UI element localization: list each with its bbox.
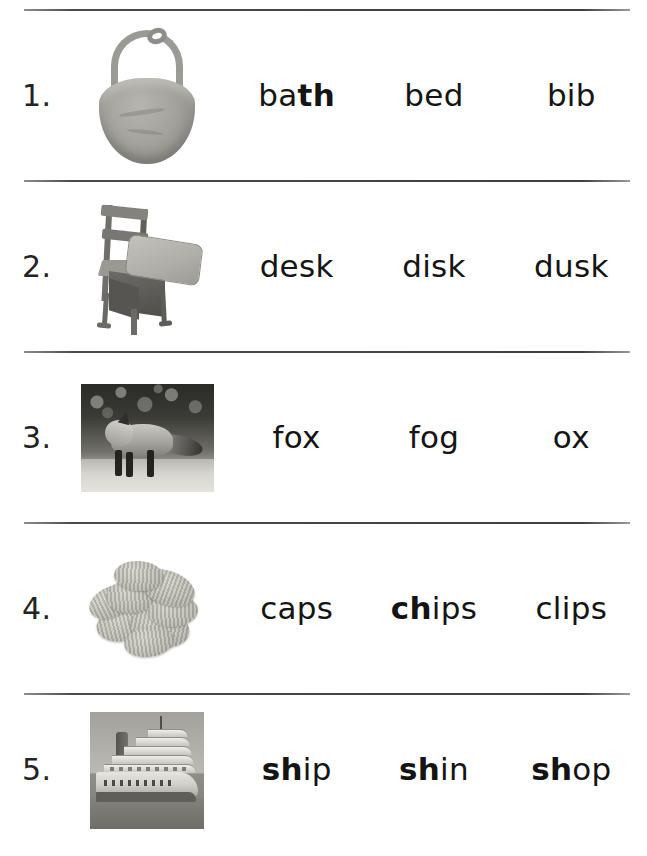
worksheet-row: 5. ship shin shop (0, 694, 647, 856)
word-digraph: th (298, 77, 336, 113)
ship-windows (110, 767, 188, 771)
worksheet-row: 2. desk disk dusk (0, 181, 647, 352)
word-choice[interactable]: dusk (503, 251, 640, 282)
word-choices: fox fog ox (228, 352, 640, 523)
word-digraph: sh (262, 751, 303, 787)
fox-leg (115, 450, 122, 476)
bib-photo (93, 26, 201, 166)
word-choice[interactable]: ship (228, 754, 365, 785)
row-number: 1. (22, 10, 68, 181)
word-choice[interactable]: bib (503, 80, 640, 111)
desk-foot (97, 322, 111, 328)
bib-body (99, 78, 195, 164)
ship-sea (90, 798, 204, 828)
school-desk-photo (87, 197, 207, 337)
word-prefix: disk (402, 248, 466, 284)
word-digraph: sh (531, 751, 572, 787)
row-picture (72, 694, 222, 856)
word-choice[interactable]: chips (365, 593, 502, 624)
desk-foot (159, 320, 172, 326)
word-prefix: ox (553, 419, 590, 455)
word-prefix: fox (273, 419, 321, 455)
row-picture (72, 352, 222, 523)
word-choices: desk disk dusk (228, 181, 640, 352)
cruise-ship-photo (90, 712, 204, 829)
row-number: 3. (22, 352, 68, 523)
word-digraph: sh (399, 751, 440, 787)
word-prefix: bib (547, 77, 596, 113)
row-picture (72, 10, 222, 181)
worksheet-row: 4. caps chips clips (0, 523, 647, 694)
row-number: 5. (22, 694, 68, 856)
word-choices: bath bed bib (228, 10, 640, 181)
desk-leg (131, 309, 137, 335)
word-prefix: dusk (534, 248, 609, 284)
word-suffix: op (572, 751, 611, 787)
row-picture (72, 181, 222, 352)
row-number: 4. (22, 523, 68, 694)
word-suffix: ips (432, 590, 477, 626)
worksheet-row: 3. fox fog ox (0, 352, 647, 523)
ship-deck (148, 729, 188, 737)
row-picture (72, 523, 222, 694)
word-prefix: clips (536, 590, 608, 626)
fox-photo (81, 384, 214, 492)
word-suffix: in (440, 751, 469, 787)
word-choice[interactable]: caps (228, 593, 365, 624)
row-number: 2. (22, 181, 68, 352)
word-choice[interactable]: fox (228, 422, 365, 453)
word-prefix: bed (404, 77, 463, 113)
word-choices: ship shin shop (228, 694, 640, 856)
word-choice[interactable]: desk (228, 251, 365, 282)
fox-leg (126, 452, 133, 477)
word-prefix: desk (260, 248, 334, 284)
word-choices: caps chips clips (228, 523, 640, 694)
desk-leg (160, 288, 167, 324)
worksheet-row: 1. bath bed bib (0, 10, 647, 181)
word-digraph: ch (391, 590, 432, 626)
fox-ear (117, 410, 132, 425)
word-prefix: caps (260, 590, 333, 626)
word-suffix: ip (303, 751, 332, 787)
word-choice[interactable]: shin (365, 754, 502, 785)
worksheet-page: 1. bath bed bib 2. (0, 0, 647, 856)
ship-portholes (104, 780, 172, 786)
word-choice[interactable]: bed (365, 80, 502, 111)
fox-leg (147, 450, 154, 477)
ship-waterline (96, 792, 196, 802)
word-choice[interactable]: clips (503, 593, 640, 624)
ship-deck (136, 737, 190, 746)
word-prefix: ba (258, 77, 297, 113)
word-choice[interactable]: ox (503, 422, 640, 453)
word-prefix: fog (409, 419, 459, 455)
word-choice[interactable]: fog (365, 422, 502, 453)
word-choice[interactable]: shop (503, 754, 640, 785)
word-choice[interactable]: bath (228, 80, 365, 111)
word-choice[interactable]: disk (365, 251, 502, 282)
potato-chips-photo (84, 553, 210, 665)
ship-deck (124, 746, 192, 755)
ship-deck (112, 755, 194, 764)
